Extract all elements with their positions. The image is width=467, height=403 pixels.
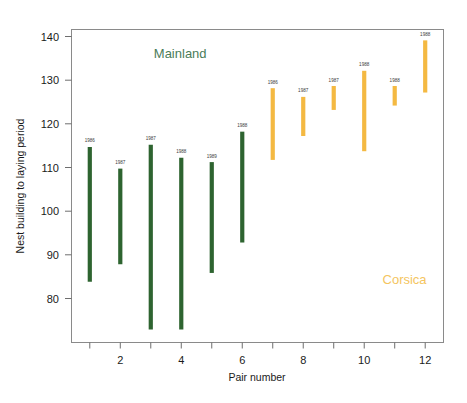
x-tick-label: 8 [300, 354, 306, 366]
year-label-pair-1: 1986 [85, 138, 96, 143]
y-tick-label: 120 [41, 118, 59, 130]
year-label-pair-4: 1988 [176, 149, 187, 154]
year-label-pair-2: 1987 [115, 160, 126, 165]
y-tick-label: 80 [47, 293, 59, 305]
x-tick-label: 4 [178, 354, 184, 366]
y-tick-label: 90 [47, 249, 59, 261]
x-tick-label: 2 [117, 354, 123, 366]
year-label-pair-3: 1987 [146, 136, 157, 141]
year-label-pair-6: 1988 [237, 123, 248, 128]
chart-svg: 140 130 120 110 100 90 80 Nest building … [0, 0, 467, 403]
y-tick-label: 110 [41, 162, 59, 174]
annotation-corsica: Corsica [383, 272, 428, 287]
x-tick-label: 6 [239, 354, 245, 366]
y-tick-label: 100 [41, 205, 59, 217]
y-tick-label: 140 [41, 31, 59, 43]
year-label-pair-5: 1989 [207, 154, 218, 159]
year-label-pair-12: 1988 [420, 32, 431, 37]
x-axis-title: Pair number [228, 371, 286, 383]
y-axis-title: Nest building to laying period [14, 118, 26, 253]
y-tick-label: 130 [41, 74, 59, 86]
year-label-pair-10: 1988 [359, 62, 370, 67]
annotation-mainland: Mainland [154, 46, 207, 61]
x-tick-label: 12 [419, 354, 431, 366]
x-tick-label: 10 [358, 354, 370, 366]
year-label-pair-11: 1988 [390, 78, 401, 83]
year-label-pair-8: 1987 [298, 88, 309, 93]
year-label-pair-9: 1987 [329, 78, 340, 83]
chart-figure: 140 130 120 110 100 90 80 Nest building … [0, 0, 467, 403]
year-label-pair-7: 1986 [268, 80, 279, 85]
